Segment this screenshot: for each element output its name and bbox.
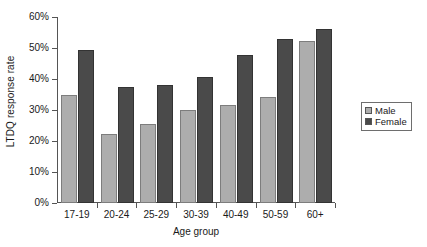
y-axis-tick [52,110,57,111]
x-axis-tick [176,203,177,208]
y-axis-tick [52,172,57,173]
bar-group [137,17,177,203]
y-axis-tick-label: 40% [0,74,49,84]
legend-item-male: Male [365,105,407,116]
bar-group [257,17,297,203]
legend-swatch-male-icon [365,107,372,114]
y-axis-tick-label: 20% [0,136,49,146]
bar-group [98,17,138,203]
bars-layer [58,17,335,203]
legend-label-male: Male [375,105,396,116]
bar-male [299,41,315,203]
bar-male [260,97,276,203]
bar-male [220,105,236,203]
bar-female [157,85,173,203]
bar-group [296,17,336,203]
bar-group [177,17,217,203]
x-axis-title: Age group [57,226,335,237]
legend-swatch-female-icon [365,118,372,125]
bar-female [237,55,253,203]
y-axis-tick-label: 10% [0,167,49,177]
bar-female [78,50,94,203]
y-axis-title-text: LTDQ response rate [6,56,17,148]
y-axis-tick [52,79,57,80]
chart-legend: Male Female [361,102,412,131]
bar-group [217,17,257,203]
y-axis-tick-label: 0% [0,198,49,208]
x-axis-tick [97,203,98,208]
bar-female [118,87,134,203]
y-axis-tick-label: 60% [0,12,49,22]
bar-male [61,95,77,203]
bar-female [316,29,332,203]
x-axis-tick [335,203,336,208]
y-axis-tick [52,141,57,142]
x-axis-tick-label: 60+ [285,209,345,220]
bar-male [101,134,117,203]
y-axis-tick [52,17,57,18]
bar-female [277,39,293,203]
x-axis-tick [136,203,137,208]
bar-female [197,77,213,203]
x-axis-tick [295,203,296,208]
bar-group [58,17,98,203]
legend-item-female: Female [365,116,407,127]
y-axis-tick [52,203,57,204]
y-axis-tick-label: 30% [0,105,49,115]
x-axis-tick [216,203,217,208]
bar-male [140,124,156,203]
bar-male [180,110,196,203]
y-axis-tick [52,48,57,49]
y-axis-tick-label: 50% [0,43,49,53]
legend-label-female: Female [375,116,407,127]
x-axis-tick [256,203,257,208]
bar-chart: LTDQ response rate 0%10%20%30%40%50%60% … [0,0,427,247]
